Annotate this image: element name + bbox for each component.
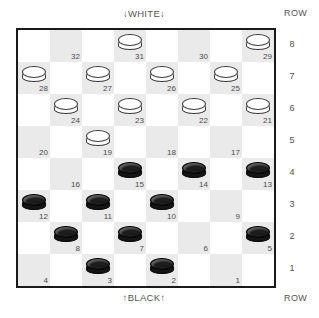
square-number-label: 14 [199,180,208,190]
white-checker-piece[interactable] [54,98,78,116]
board-square-3[interactable]: 3 [82,254,114,286]
piece-top [246,226,270,238]
board-square-light [146,94,178,126]
board-square-13[interactable]: 13 [242,158,274,190]
square-number-label: 16 [71,180,80,190]
piece-top [150,66,174,78]
white-checker-piece[interactable] [118,34,142,52]
board-square-4[interactable]: 4 [18,254,50,286]
piece-top [22,194,46,206]
black-checker-piece[interactable] [54,226,78,244]
square-number-label: 2 [172,276,176,286]
board-square-23[interactable]: 23 [114,94,146,126]
board-square-20[interactable]: 20 [18,126,50,158]
board-square-32[interactable]: 32 [50,30,82,62]
board-square-light [18,30,50,62]
square-number-label: 32 [71,52,80,62]
piece-top [118,34,142,46]
board-square-25[interactable]: 25 [210,62,242,94]
board-square-27[interactable]: 27 [82,62,114,94]
piece-top [118,162,142,174]
board-square-8[interactable]: 8 [50,222,82,254]
square-number-label: 30 [199,52,208,62]
square-number-label: 31 [135,52,144,62]
black-checker-piece[interactable] [246,162,270,180]
board-square-9[interactable]: 9 [210,190,242,222]
piece-top [86,258,110,270]
white-checker-piece[interactable] [118,98,142,116]
piece-top [118,226,142,238]
board-square-6[interactable]: 6 [178,222,210,254]
piece-top [54,98,78,110]
square-number-label: 28 [39,84,48,94]
board-square-1[interactable]: 1 [210,254,242,286]
piece-top [86,130,110,142]
board-square-7[interactable]: 7 [114,222,146,254]
board-square-light [50,254,82,286]
board-square-light [242,126,274,158]
board-square-17[interactable]: 17 [210,126,242,158]
board-square-light [178,126,210,158]
board-square-light [114,126,146,158]
white-checker-piece[interactable] [246,98,270,116]
board-square-10[interactable]: 10 [146,190,178,222]
piece-top [150,258,174,270]
black-checker-piece[interactable] [86,258,110,276]
piece-top [54,226,78,238]
black-checker-piece[interactable] [118,226,142,244]
board-square-11[interactable]: 11 [82,190,114,222]
square-number-label: 23 [135,116,144,126]
black-checker-piece[interactable] [22,194,46,212]
board-square-16[interactable]: 16 [50,158,82,190]
board-square-29[interactable]: 29 [242,30,274,62]
board-square-light [210,94,242,126]
square-number-label: 24 [71,116,80,126]
white-checker-piece[interactable] [22,66,46,84]
row-number-3: 3 [284,188,300,220]
black-checker-piece[interactable] [246,226,270,244]
square-number-label: 27 [103,84,112,94]
white-checker-piece[interactable] [86,130,110,148]
square-number-label: 22 [199,116,208,126]
black-checker-piece[interactable] [150,258,174,276]
board-square-light [82,94,114,126]
black-checker-piece[interactable] [118,162,142,180]
board-square-15[interactable]: 15 [114,158,146,190]
board-square-light [178,190,210,222]
board-square-light [82,30,114,62]
square-number-label: 29 [263,52,272,62]
white-checker-piece[interactable] [246,34,270,52]
board-square-30[interactable]: 30 [178,30,210,62]
board-square-31[interactable]: 31 [114,30,146,62]
black-checker-piece[interactable] [150,194,174,212]
board-square-12[interactable]: 12 [18,190,50,222]
board-square-18[interactable]: 18 [146,126,178,158]
checkers-board[interactable]: 3231302928272625242322212019181716151413… [16,28,276,288]
board-square-2[interactable]: 2 [146,254,178,286]
board-square-light [146,222,178,254]
board-square-28[interactable]: 28 [18,62,50,94]
white-checker-piece[interactable] [182,98,206,116]
board-square-19[interactable]: 19 [82,126,114,158]
white-checker-piece[interactable] [150,66,174,84]
board-square-light [210,222,242,254]
black-checker-piece[interactable] [182,162,206,180]
board-square-22[interactable]: 22 [178,94,210,126]
board-square-light [242,62,274,94]
board-square-light [210,158,242,190]
board-grid: 3231302928272625242322212019181716151413… [18,30,274,286]
board-square-24[interactable]: 24 [50,94,82,126]
black-checker-piece[interactable] [86,194,110,212]
square-number-label: 1 [236,276,240,286]
square-number-label: 25 [231,84,240,94]
row-number-4: 4 [284,156,300,188]
board-square-light [146,158,178,190]
board-square-21[interactable]: 21 [242,94,274,126]
white-checker-piece[interactable] [214,66,238,84]
white-checker-piece[interactable] [86,66,110,84]
board-square-26[interactable]: 26 [146,62,178,94]
checkers-board-diagram: ↓WHITE↓ ROW 3231302928272625242322212019… [0,0,319,318]
board-square-5[interactable]: 5 [242,222,274,254]
board-square-light [18,94,50,126]
board-square-14[interactable]: 14 [178,158,210,190]
